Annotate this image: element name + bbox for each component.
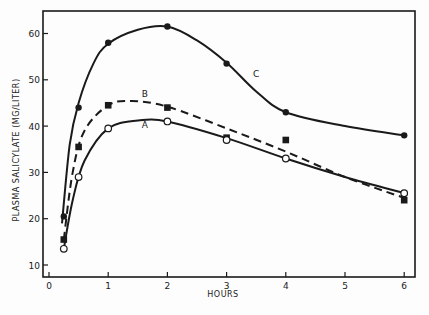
x-axis-title: HOURS <box>207 290 238 299</box>
marker-c <box>164 23 170 29</box>
marker-a <box>283 155 290 162</box>
y-tick-label: 40 <box>29 122 41 132</box>
marker-b <box>61 236 68 243</box>
marker-b <box>105 102 112 109</box>
x-axis-ticks: 0123456 <box>46 272 407 291</box>
y-axis-ticks: 102030405060 <box>29 29 48 271</box>
series-label-c: C <box>253 69 259 79</box>
marker-b <box>75 144 82 151</box>
curve-a <box>64 119 404 248</box>
marker-a <box>105 125 112 132</box>
marker-a <box>223 137 230 144</box>
marker-a <box>75 174 82 181</box>
marker-c <box>105 40 111 46</box>
x-tick-label: 1 <box>105 281 111 291</box>
x-tick-label: 6 <box>401 281 407 291</box>
series-curves <box>62 26 404 249</box>
marker-b <box>283 137 290 144</box>
marker-c <box>401 132 407 138</box>
marker-c <box>223 60 229 66</box>
y-tick-label: 50 <box>29 75 41 85</box>
x-tick-label: 2 <box>165 281 171 291</box>
marker-a <box>164 118 171 125</box>
series-label-b: B <box>142 89 148 99</box>
plot-frame <box>43 11 415 277</box>
x-tick-label: 5 <box>342 281 348 291</box>
y-tick-label: 30 <box>29 168 41 178</box>
x-tick-label: 4 <box>283 281 289 291</box>
x-tick-label: 0 <box>46 281 52 291</box>
plot-border <box>43 11 415 277</box>
marker-a <box>61 245 68 252</box>
y-tick-label: 10 <box>29 261 41 271</box>
y-axis-title: PLASMA SALICYLATE (MG/LITER) <box>12 78 21 221</box>
curve-b <box>64 101 404 240</box>
marker-c <box>283 109 289 115</box>
marker-c <box>61 213 67 219</box>
marker-a <box>401 190 408 197</box>
marker-c <box>75 104 81 110</box>
series-markers <box>61 23 408 252</box>
y-tick-label: 60 <box>29 29 41 39</box>
marker-b <box>164 104 171 111</box>
series-label-a: A <box>142 120 149 130</box>
y-tick-label: 20 <box>29 214 41 224</box>
marker-b <box>401 197 408 204</box>
chart-canvas: 0123456 102030405060 CBA HOURS PLASMA SA… <box>0 0 429 315</box>
